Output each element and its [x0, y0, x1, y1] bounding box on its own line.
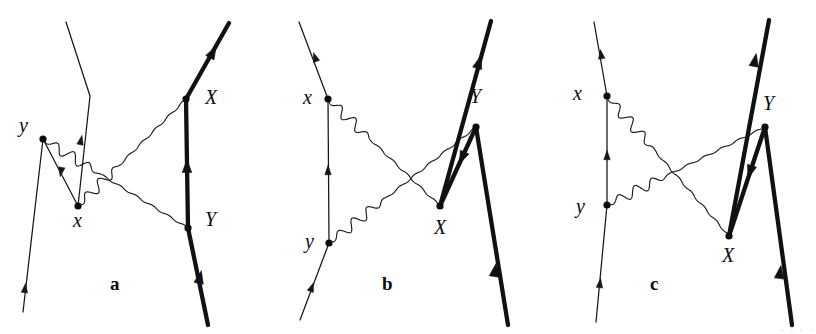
- panel-label-b: b: [382, 273, 393, 294]
- vertex-dot-a-X: [182, 95, 189, 102]
- arrowhead-b-thin-0: [307, 283, 313, 293]
- photon-y-to-Y-a: [43, 139, 188, 228]
- edge-artifact-text: · · · ·: [780, 322, 814, 334]
- arrowhead-b-thick-1-0: [459, 150, 469, 164]
- vertex-label-a-X: X: [204, 86, 218, 108]
- arrowhead-b-thin-2: [313, 53, 319, 63]
- vertex-label-a-Y: Y: [205, 208, 218, 230]
- panel-label-a: a: [110, 273, 120, 294]
- arrowhead-b-thin-1: [325, 165, 332, 175]
- vertex-dot-c-x: [603, 92, 610, 99]
- vertex-label-b-y: y: [303, 230, 314, 253]
- arrowhead-c-thick-1-0: [747, 164, 756, 178]
- panel-c: xyXYc: [572, 20, 792, 325]
- vertex-label-c-x: x: [572, 82, 582, 104]
- fermion-line-thick-c-3: [765, 127, 792, 325]
- arrowhead-c-thin-1: [604, 150, 611, 160]
- photon-x-to-X-c: [607, 96, 730, 235]
- diagram-canvas: yxXYaxyXYbxyXYc: [0, 0, 816, 334]
- vertex-label-c-X: X: [721, 244, 735, 266]
- vertex-label-b-x: x: [302, 86, 312, 108]
- vertex-dot-a-Y: [184, 224, 191, 231]
- vertex-dot-b-Y: [472, 123, 479, 130]
- fermion-line-thin-b: [299, 22, 329, 320]
- photon-y-to-Y-b: [329, 127, 476, 243]
- arrowhead-b-thick-0-0: [473, 56, 482, 70]
- vertex-dot-c-Y: [761, 123, 768, 130]
- fermion-line-thin-a: [23, 22, 90, 312]
- photon-x-to-X-b: [328, 99, 440, 206]
- vertex-label-a-x: x: [72, 209, 82, 231]
- vertex-label-c-y: y: [574, 195, 585, 218]
- feynman-figure-root: yxXYaxyXYbxyXYc · · · ·: [0, 0, 816, 334]
- photon-x-to-X-a: [78, 99, 186, 206]
- arrowhead-a-thin-2: [77, 135, 83, 145]
- vertex-label-c-Y: Y: [763, 92, 776, 114]
- vertex-dot-b-x: [324, 95, 331, 102]
- panel-a: yxXYa: [17, 22, 229, 325]
- arrowhead-a-thick-0-1: [182, 160, 192, 173]
- fermion-line-thick-a-1: [186, 23, 229, 325]
- vertex-label-a-y: y: [17, 114, 28, 137]
- vertex-dot-a-y: [39, 135, 46, 142]
- vertex-label-b-Y: Y: [470, 85, 483, 107]
- vertex-label-b-X: X: [433, 216, 447, 238]
- vertex-dot-b-y: [325, 239, 332, 246]
- panel-label-c: c: [650, 273, 658, 294]
- vertex-dot-b-X: [436, 202, 443, 209]
- arrowhead-c-thick-0-0: [749, 54, 758, 68]
- panel-b: xyXYb: [299, 21, 508, 325]
- fermion-line-thin-c: [594, 22, 607, 322]
- vertex-dot-c-y: [603, 201, 610, 208]
- fermion-line-thick-b-3: [476, 127, 508, 325]
- vertex-dot-c-X: [725, 232, 732, 239]
